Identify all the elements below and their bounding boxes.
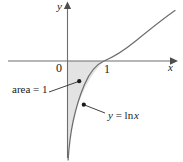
ln-curve (68, 11, 175, 161)
curve-annotation-label: y = ln x (108, 110, 139, 121)
origin-label: 0 (56, 62, 62, 74)
shaded-area-region (68, 61, 105, 153)
curve-annotation-var: x (134, 109, 139, 121)
curve-annotation-fn: ln (125, 109, 134, 121)
x-axis-label: x (168, 62, 173, 73)
x-tick-label-one: 1 (104, 63, 110, 75)
curve-annotation-equals: = (113, 109, 125, 121)
logarithm-graph-figure: y x 0 1 area = 1 y = ln x (0, 0, 183, 162)
y-axis-label: y (57, 1, 62, 12)
area-annotation-label: area = 1 (12, 84, 48, 95)
curve-leader-line (82, 103, 105, 113)
graph-canvas (0, 0, 183, 162)
